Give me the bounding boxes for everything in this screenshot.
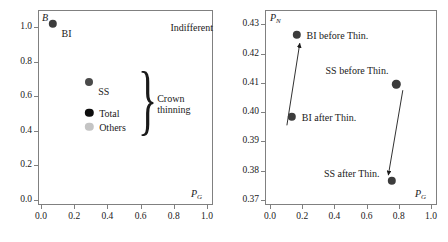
x-tick-label: 1.0 [201,212,213,222]
crown-thinning-annotation: Crown thinning [157,93,190,115]
x-tick-label: 0.6 [135,212,147,222]
left-scatter-panel: B PG 0.00.20.40.60.81.00.00.20.40.60.81.… [0,0,224,242]
point-label-bi-before-thin: BI before Thin. [307,30,369,41]
y-tick-label: 0.4 [20,126,32,136]
figure-container: B PG 0.00.20.40.60.81.00.00.20.40.60.81.… [0,0,448,242]
x-tick-label: 0.4 [101,212,113,222]
data-point-ss [85,78,93,86]
indifferent-annotation: Indifferent [170,22,213,33]
x-tick-label: 0.0 [35,212,47,222]
crown-thinning-line-1: Crown [157,93,184,104]
y-tick [34,165,38,166]
left-y-axis-label: B [42,13,48,23]
point-label-ss-after-thin: SS after Thin. [324,168,380,179]
point-label-total: Total [99,108,119,119]
x-tick [74,205,75,209]
crown-thinning-line-2: thinning [157,104,190,115]
y-tick [34,131,38,132]
x-tick-label: 0.2 [68,212,80,222]
y-tick-label: 1.0 [20,23,32,33]
y-tick-label: 0.0 [20,195,32,205]
point-label-ss-before-thin: SS before Thin. [326,65,389,76]
y-tick-label: 0.2 [20,161,32,171]
y-tick [34,96,38,97]
x-tick-label: 0.8 [168,212,180,222]
point-label-others: Others [99,122,126,133]
y-tick [34,62,38,63]
x-tick [107,205,108,209]
right-scatter-panel: PN PG 0.00.20.40.60.81.00.370.380.390.40… [224,0,448,242]
y-tick-label: 0.6 [20,92,32,102]
y-tick [34,200,38,201]
x-tick [141,205,142,209]
left-x-axis-label: PG [191,189,202,199]
y-tick-label: 0.8 [20,57,32,67]
x-tick [207,205,208,209]
x-tick [41,205,42,209]
point-label-bi: BI [62,28,72,39]
y-tick [34,27,38,28]
point-label-bi-after-thin: BI after Thin. [302,112,357,123]
ss-arrow [388,90,402,175]
point-label-ss: SS [98,86,109,97]
curly-brace-icon: } [138,61,157,139]
x-tick [174,205,175,209]
